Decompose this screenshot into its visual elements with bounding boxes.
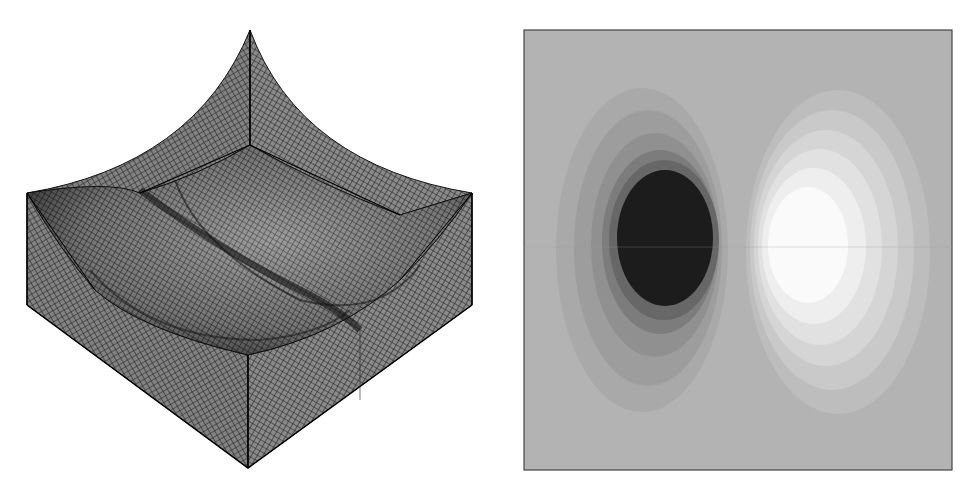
negative-lobe bbox=[556, 88, 728, 412]
mesh-surface-panel: Mesh surface (isometric view) bbox=[0, 0, 500, 491]
contour-plot-panel: Contour plot (dipole pattern) bbox=[510, 0, 975, 491]
positive-lobe bbox=[746, 90, 930, 414]
contour-plot-figure bbox=[510, 0, 975, 491]
mesh-surface-figure bbox=[0, 0, 500, 491]
